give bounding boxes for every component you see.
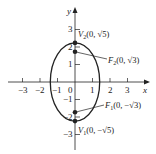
x-axis-label: x: [142, 85, 147, 95]
y-axis-arrow-icon: [73, 7, 78, 13]
f1-label: F1(0, −√3): [104, 100, 141, 111]
x-tick-label: −1: [52, 85, 62, 95]
vertex-v2-point: [73, 41, 78, 46]
y-tick-label: 3: [68, 24, 73, 34]
f2-label: F2(0, √3): [107, 55, 139, 66]
y-tick-label: −1: [63, 94, 73, 104]
vertex-v1-point: [73, 119, 78, 124]
v1-label: V1(0, −√5): [78, 125, 114, 136]
x-tick-label: −3: [18, 85, 28, 95]
x-tick-label: 1: [90, 85, 95, 95]
x-tick-label: 3: [125, 85, 130, 95]
x-tick-label: −2: [35, 85, 45, 95]
focus-f1-point: [73, 110, 78, 115]
ellipse-diagram: −3 −2 −1 0 1 2 3 x 3 2 1 −1 −2 −3 y V2(0…: [0, 0, 156, 154]
y-tick-label: −3: [63, 129, 73, 139]
f1-leader-line: [76, 105, 104, 112]
v2-label: V2(0, √5): [78, 29, 109, 40]
focus-f2-point: [73, 49, 78, 54]
x-tick-label: 2: [108, 85, 113, 95]
y-tick-label: 1: [68, 59, 73, 69]
y-axis-label: y: [66, 6, 71, 16]
x-axis-arrow-icon: [144, 80, 150, 85]
